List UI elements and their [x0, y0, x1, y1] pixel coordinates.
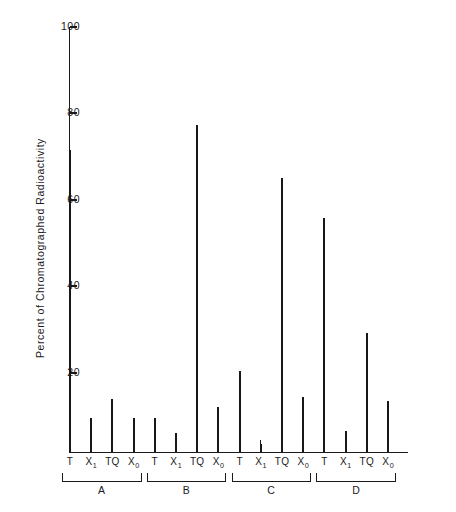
group-bracket: [62, 473, 142, 482]
group-bracket: [316, 473, 396, 482]
x-tick-mark: [387, 440, 388, 452]
x-tick-mark: [260, 440, 261, 452]
group-bracket: [232, 473, 312, 482]
chart-figure: Percent of Chromatographed Radioactivity…: [0, 0, 456, 512]
x-tick-mark: [366, 440, 367, 452]
bar: [366, 333, 368, 452]
x-tick-mark: [154, 440, 155, 452]
bar: [69, 150, 71, 452]
bar: [281, 178, 283, 452]
x-tick-mark: [69, 440, 70, 452]
group-label: D: [316, 484, 396, 497]
x-tick-mark: [112, 440, 113, 452]
x-tick-mark: [218, 440, 219, 452]
x-tick-mark: [324, 440, 325, 452]
bar: [323, 218, 325, 452]
x-axis-label: X0: [371, 456, 405, 469]
x-tick-mark: [175, 440, 176, 452]
x-tick-mark: [239, 440, 240, 452]
x-tick-mark: [197, 440, 198, 452]
bars-layer: [0, 0, 456, 452]
x-tick-mark: [345, 440, 346, 452]
bar: [196, 125, 198, 452]
x-tick-mark: [91, 440, 92, 452]
x-tick-mark: [303, 440, 304, 452]
x-tick-mark: [281, 440, 282, 452]
x-axis-line: [69, 452, 408, 453]
group-label: C: [232, 484, 312, 497]
x-tick-mark: [133, 440, 134, 452]
group-bracket: [147, 473, 227, 482]
group-label: A: [62, 484, 142, 497]
group-label: B: [147, 484, 227, 497]
